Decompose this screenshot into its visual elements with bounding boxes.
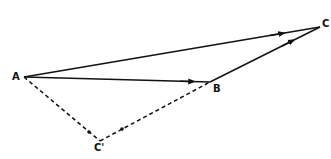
vector-diagram — [0, 0, 331, 159]
edge-cprime-b — [100, 82, 210, 141]
edge-b-c — [210, 27, 320, 82]
arrow-b-c-icon — [282, 41, 292, 46]
label-c: C — [322, 19, 329, 29]
label-b: B — [213, 84, 221, 94]
label-c-prime: C' — [94, 143, 104, 153]
arrow-cprime-b-icon — [120, 127, 124, 131]
arrow-a-c-icon — [270, 33, 282, 35]
arrow-a-cprime-icon — [87, 130, 91, 134]
label-a: A — [12, 72, 20, 82]
